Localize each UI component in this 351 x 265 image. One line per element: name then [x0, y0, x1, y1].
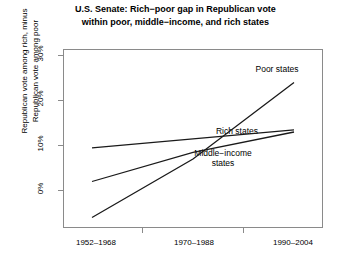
chart-figure: U.S. Senate: Rich−poor gap in Republican…	[0, 0, 351, 265]
line-rich-states	[92, 130, 294, 148]
y-axis-ticks	[58, 56, 64, 191]
data-lines	[92, 83, 294, 218]
plot-area	[0, 0, 351, 265]
x-axis-ticks	[143, 228, 244, 234]
line-poor-states	[92, 83, 294, 218]
